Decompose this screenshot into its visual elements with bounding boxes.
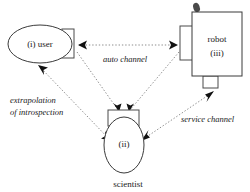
scientist-caption: scientist [113, 179, 143, 189]
extrapolation-label-line1: extrapolation [10, 95, 56, 105]
extrapolation-label-line2: of introspection [10, 107, 63, 117]
auto-channel-label: auto channel [103, 54, 148, 64]
robot-label-line2: (iii) [210, 48, 224, 58]
edge-auto-channel [78, 41, 178, 50]
auto-channel-arrowhead-right [169, 41, 178, 50]
scientist-label: (ii) [119, 139, 130, 149]
robot-bottom-port-rect [203, 76, 218, 88]
robot-label-line1: robot [208, 34, 227, 44]
diagram-svg: (i) user robot (iii) (ii) scientist auto… [0, 0, 250, 192]
user-label: (i) user [27, 39, 53, 49]
node-scientist[interactable]: (ii) scientist [104, 110, 144, 189]
diagram-canvas: (i) user robot (iii) (ii) scientist auto… [0, 0, 250, 192]
service-channel-label: service channel [181, 114, 235, 124]
node-user[interactable]: (i) user [8, 25, 74, 63]
robot-antenna-icon [192, 2, 201, 13]
node-robot[interactable]: robot (iii) [180, 2, 242, 88]
service-channel-arrowhead-robot [205, 91, 214, 102]
robot-left-port-rect [180, 26, 193, 60]
